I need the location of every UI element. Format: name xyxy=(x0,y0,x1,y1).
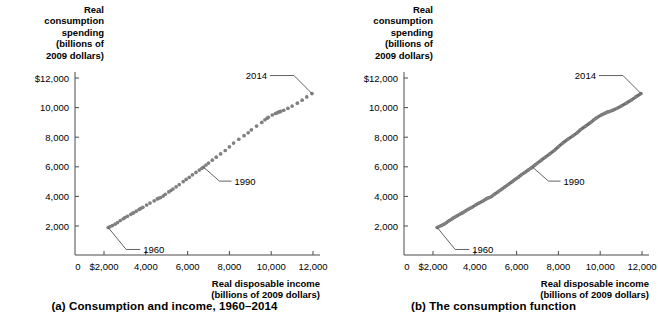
data-point xyxy=(485,197,488,200)
chart-panel-b: Real consumption spending (billions of 2… xyxy=(329,0,658,323)
data-point xyxy=(148,201,152,205)
data-point xyxy=(589,121,592,124)
data-point xyxy=(277,110,281,114)
data-point xyxy=(137,208,141,212)
data-point xyxy=(474,203,477,206)
chart-panel-a: Real consumption spending (billions of 2… xyxy=(0,0,329,323)
data-point xyxy=(639,92,642,95)
data-point xyxy=(533,163,536,166)
x-tick-label: 0 xyxy=(404,261,409,272)
data-point xyxy=(156,196,160,200)
data-point xyxy=(310,92,314,96)
x-axis-title-line: Real disposable income xyxy=(212,278,320,289)
data-point xyxy=(279,110,283,114)
data-point xyxy=(440,224,443,227)
data-point xyxy=(523,171,526,174)
data-point xyxy=(576,131,579,134)
data-point xyxy=(163,192,167,196)
data-point xyxy=(600,113,603,116)
data-point xyxy=(463,210,466,213)
y-tick-label: 8,000 xyxy=(45,132,69,143)
data-point xyxy=(242,134,246,138)
x-tick-label: 10,000 xyxy=(257,261,286,272)
data-point xyxy=(553,149,556,152)
data-point xyxy=(204,163,208,167)
y-tick-label: 4,000 xyxy=(374,191,398,202)
data-point xyxy=(503,185,506,188)
data-point xyxy=(481,199,484,202)
data-point xyxy=(108,225,112,229)
y-tick-label: 8,000 xyxy=(374,132,398,143)
x-tick-label: 6,000 xyxy=(176,261,200,272)
y-tick-label: 4,000 xyxy=(45,191,69,202)
annotation-2014: 2014 xyxy=(246,70,267,81)
data-point xyxy=(451,217,454,220)
data-point xyxy=(529,167,532,170)
data-point xyxy=(490,194,493,197)
data-point xyxy=(167,190,171,194)
data-point xyxy=(200,166,204,170)
data-point xyxy=(300,98,304,102)
data-point xyxy=(460,211,463,214)
data-point xyxy=(500,187,503,190)
data-point xyxy=(197,168,201,172)
data-point xyxy=(159,196,163,200)
data-point xyxy=(152,199,156,203)
data-point xyxy=(260,121,264,125)
data-point xyxy=(184,178,188,182)
data-point xyxy=(202,165,206,169)
y-tick-label: 6,000 xyxy=(374,161,398,172)
x-tick-label: 8,000 xyxy=(218,261,242,272)
consumption-function-line xyxy=(437,94,641,228)
data-point xyxy=(171,187,175,191)
data-point xyxy=(531,165,534,168)
data-point xyxy=(520,173,523,176)
x-tick-label: 6,000 xyxy=(505,261,529,272)
data-point xyxy=(118,219,122,223)
data-point xyxy=(496,190,499,193)
data-point xyxy=(187,175,191,179)
x-tick-label: 4,000 xyxy=(134,261,158,272)
x-tick-label: 4,000 xyxy=(463,261,487,272)
data-point xyxy=(470,206,473,209)
data-point xyxy=(228,145,232,149)
data-point xyxy=(448,219,451,222)
data-point xyxy=(237,137,241,141)
y-tick-label: $12,000 xyxy=(35,73,69,84)
data-point xyxy=(493,193,496,196)
data-point xyxy=(603,112,606,115)
data-point xyxy=(131,211,135,215)
data-point xyxy=(477,201,480,204)
y-tick-label: 6,000 xyxy=(45,161,69,172)
data-point xyxy=(596,116,599,119)
y-tick-label: 10,000 xyxy=(369,102,398,113)
panel-caption-b: (b) The consumption function xyxy=(329,300,658,312)
data-point xyxy=(625,101,628,104)
data-point xyxy=(571,134,574,137)
data-point xyxy=(295,101,299,105)
y-axis-title-a: Real consumption spending (billions of 2… xyxy=(6,4,104,61)
data-point xyxy=(266,116,270,120)
x-tick-label: 0 xyxy=(75,261,80,272)
data-point xyxy=(579,128,582,131)
data-point xyxy=(511,180,514,183)
data-point xyxy=(619,104,622,107)
data-point xyxy=(255,124,259,128)
data-point xyxy=(527,168,530,171)
data-point xyxy=(437,225,440,228)
data-point xyxy=(145,203,149,207)
data-point xyxy=(507,183,510,186)
data-point xyxy=(458,213,461,216)
x-axis-title-line: (billions of 2009 dollars) xyxy=(540,289,649,300)
annotation-1960: 1960 xyxy=(143,244,164,255)
data-point xyxy=(544,155,547,158)
data-point xyxy=(174,185,178,189)
annotation-1960: 1960 xyxy=(472,244,493,255)
data-point xyxy=(468,207,471,210)
data-point xyxy=(513,178,516,181)
data-point xyxy=(129,212,133,216)
y-tick-label: 2,000 xyxy=(374,221,398,232)
data-point xyxy=(435,226,438,229)
data-point xyxy=(219,152,223,156)
y-tick-label: $12,000 xyxy=(364,73,398,84)
